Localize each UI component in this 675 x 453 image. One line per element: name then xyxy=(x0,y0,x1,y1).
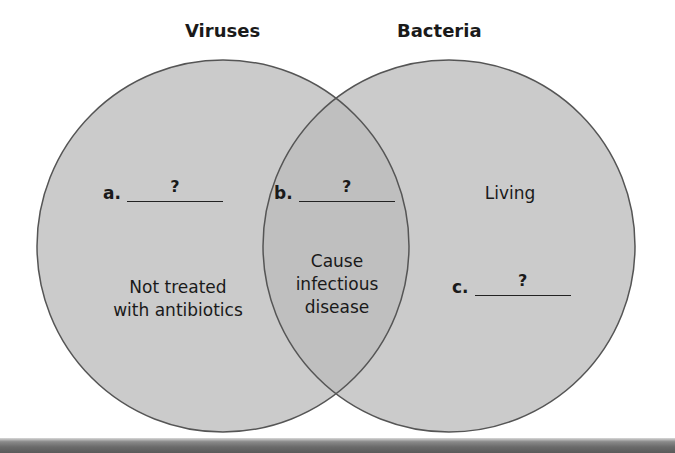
intersection-line-2: infectious xyxy=(282,273,392,296)
viruses-title: Viruses xyxy=(185,22,260,40)
intersection-line-1: Cause xyxy=(282,250,392,273)
blank-b-question: ? xyxy=(299,177,395,196)
blank-c: c. ? xyxy=(452,277,571,296)
blank-b-line[interactable]: ? xyxy=(299,183,395,202)
blank-b: b. ? xyxy=(274,183,395,202)
blank-c-line[interactable]: ? xyxy=(475,277,571,296)
intersection-line-3: disease xyxy=(282,296,392,319)
blank-c-letter: c. xyxy=(452,279,469,296)
viruses-statement-line-1: Not treated xyxy=(88,276,268,299)
blank-c-question: ? xyxy=(475,271,571,290)
bacteria-statement-living: Living xyxy=(470,182,550,205)
viruses-statement-line-2: with antibiotics xyxy=(88,299,268,322)
blank-a: a. ? xyxy=(103,183,223,202)
blank-a-letter: a. xyxy=(103,185,121,202)
viruses-statement: Not treated with antibiotics xyxy=(88,276,268,322)
blank-b-letter: b. xyxy=(274,185,293,202)
venn-diagram xyxy=(0,0,675,453)
bottom-divider-band xyxy=(0,438,675,453)
blank-a-question: ? xyxy=(127,177,223,196)
bacteria-title: Bacteria xyxy=(397,22,482,40)
blank-a-line[interactable]: ? xyxy=(127,183,223,202)
intersection-statement: Cause infectious disease xyxy=(282,250,392,319)
